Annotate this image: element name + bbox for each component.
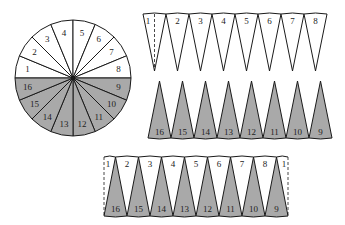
top-sector-label: 2 [175, 16, 180, 26]
strip-top-arc [139, 156, 162, 157]
circle-sector-label: 11 [94, 112, 103, 122]
top-sector-label: 8 [313, 16, 318, 26]
strip-unshaded-label: 8 [263, 159, 268, 169]
strip-shaded-label: 16 [111, 204, 121, 214]
strip-unshaded-label: 6 [217, 159, 222, 169]
strip-top-arc [104, 156, 116, 157]
top-sector-label: 6 [267, 16, 272, 26]
circle-sector-label: 4 [62, 28, 67, 38]
strip-shaded-label: 11 [226, 204, 235, 214]
strip-unshaded-label: 2 [125, 159, 130, 169]
top-sector-label: 7 [290, 16, 295, 26]
circle-sector-label: 5 [80, 28, 85, 38]
strip-shaded-label: 10 [249, 204, 259, 214]
middle-sector-label: 15 [178, 127, 188, 137]
strip-unshaded-label: 1 [106, 159, 111, 169]
strip-shaded-label: 15 [134, 204, 144, 214]
top-sector-label: 1 [146, 16, 151, 26]
strip-shaded-label: 14 [157, 204, 167, 214]
strip-top-arc [208, 156, 231, 157]
rearranged-parallelogram-strip: 161514131211109123456781 [104, 156, 288, 217]
divided-circle: 12345678910111213141516 [15, 20, 131, 136]
circle-sector-label: 6 [97, 34, 102, 44]
strip-unshaded-label: 3 [148, 159, 153, 169]
middle-sector-label: 13 [224, 127, 234, 137]
strip-shaded-label: 13 [180, 204, 190, 214]
circle-sector-label: 2 [32, 47, 37, 57]
circle-sector-label: 15 [30, 99, 40, 109]
center-point [71, 76, 75, 80]
middle-sector-label: 10 [293, 127, 303, 137]
strip-shaded-label: 12 [203, 204, 212, 214]
top-sector-label: 3 [198, 16, 203, 26]
circle-sector-label: 3 [45, 34, 50, 44]
strip-unshaded-label: 5 [194, 159, 199, 169]
circle-sector-rearrangement-diagram: 12345678910111213141516 12345678 1615141… [0, 0, 345, 225]
middle-sector-label: 9 [318, 127, 323, 137]
middle-sector-label: 16 [155, 127, 165, 137]
circle-sector-label: 9 [116, 82, 121, 92]
circle-sector-label: 8 [116, 64, 121, 74]
strip-top-arc [231, 156, 254, 157]
middle-sector-label: 11 [270, 127, 279, 137]
middle-sector-label: 12 [247, 127, 256, 137]
strip-unshaded-label: 1 [282, 159, 287, 169]
strip-top-arc [277, 156, 289, 157]
strip-unshaded-label: 7 [240, 159, 245, 169]
circle-sector-label: 1 [25, 64, 30, 74]
top-row-unshaded-sectors: 12345678 [143, 13, 327, 71]
circle-sector-label: 13 [59, 119, 69, 129]
circle-sector-label: 16 [23, 82, 33, 92]
middle-sector-label: 14 [201, 127, 211, 137]
strip-shaded-label: 9 [274, 204, 279, 214]
top-sector-label: 4 [221, 16, 226, 26]
middle-row-shaded-sectors: 161514131211109 [148, 81, 332, 139]
strip-top-arc [185, 156, 208, 157]
strip-top-arc [254, 156, 277, 157]
strip-unshaded-label: 4 [171, 159, 176, 169]
circle-sector-label: 7 [109, 47, 114, 57]
circle-sector-label: 14 [43, 112, 53, 122]
circle-sector-label: 12 [78, 119, 87, 129]
strip-top-arc [162, 156, 185, 157]
circle-sector-label: 10 [107, 99, 117, 109]
top-sector-label: 5 [244, 16, 249, 26]
strip-top-arc [116, 156, 139, 157]
